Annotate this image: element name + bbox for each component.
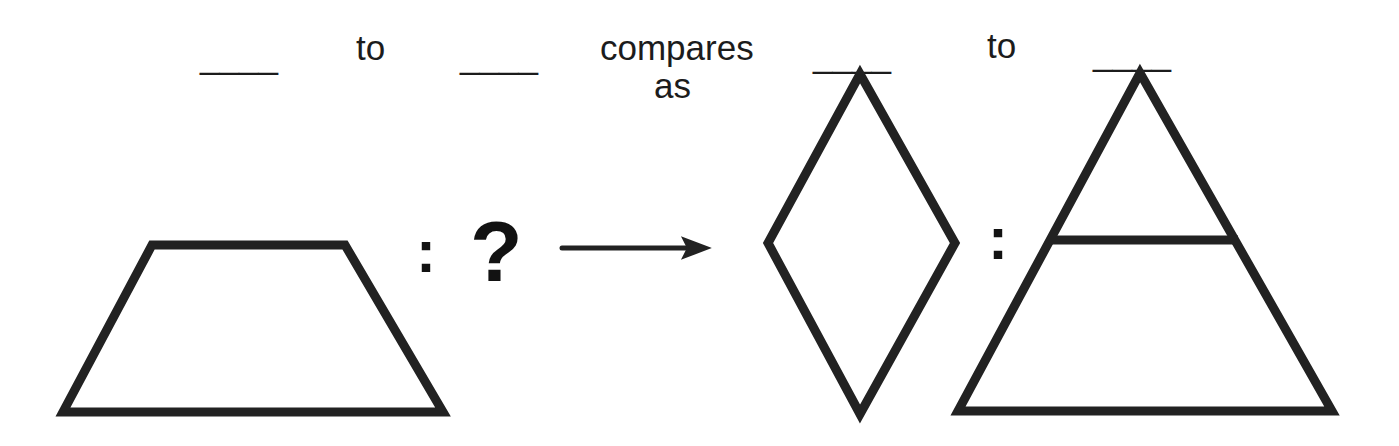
rhombus-shape [768,74,955,414]
relation-arrow-icon [562,238,709,258]
trapezoid-shape [63,245,443,412]
analogy-puzzle-canvas: ____ to ____ compares as ____ to ____ : … [0,0,1399,446]
right-ratio-colon: : [988,209,1008,269]
question-mark-placeholder[interactable]: ? [470,208,523,294]
left-ratio-colon: : [416,222,436,282]
triangle-shape [958,73,1332,411]
shapes-figure [0,0,1399,446]
